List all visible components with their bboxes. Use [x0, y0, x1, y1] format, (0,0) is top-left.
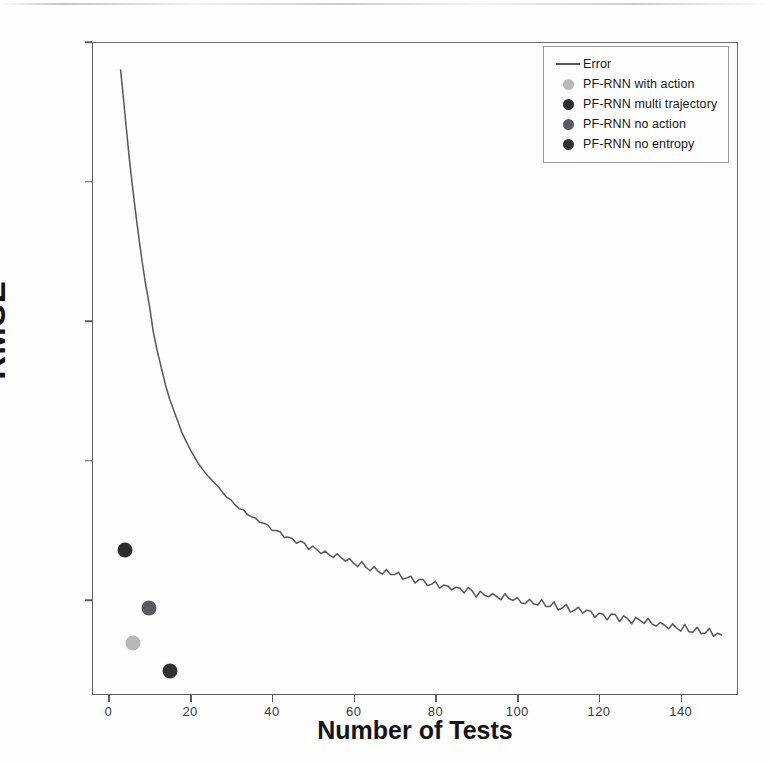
legend-dot-marker: [563, 139, 574, 150]
x-tick-mark: [435, 695, 437, 702]
scatter-point: [117, 542, 132, 557]
y-tick-mark: [85, 320, 92, 322]
y-tick-mark: [85, 181, 92, 183]
y-tick-mark: [85, 599, 92, 601]
x-tick-label: 40: [264, 704, 279, 719]
legend-label: PF-RNN no action: [583, 117, 686, 131]
legend-item: PF-RNN with action: [553, 74, 719, 94]
y-tick-mark: [85, 41, 92, 43]
x-tick-mark: [272, 695, 274, 702]
x-tick-mark: [108, 695, 110, 702]
legend-item: PF-RNN no entropy: [553, 134, 719, 154]
x-tick-label: 120: [588, 704, 611, 719]
legend-label: Error: [583, 57, 611, 71]
legend-item: Error: [553, 54, 719, 74]
scan-artifact-line: [0, 3, 772, 5]
x-tick-mark: [190, 695, 192, 702]
x-tick-label: 140: [669, 704, 692, 719]
legend-label: PF-RNN no entropy: [583, 137, 694, 151]
rmse-figure: 2.52.051.00.5020406080100120140 RMSE Num…: [0, 0, 772, 764]
legend-item: PF-RNN multi trajectory: [553, 94, 719, 114]
scatter-point: [162, 664, 177, 679]
chart-legend: ErrorPF-RNN with actionPF-RNN multi traj…: [543, 46, 729, 163]
x-tick-mark: [517, 695, 519, 702]
legend-line-marker: [556, 63, 580, 64]
legend-key-dot: [553, 79, 583, 90]
legend-key-dot: [553, 119, 583, 130]
legend-dot-marker: [563, 79, 574, 90]
x-tick-label: 0: [105, 704, 113, 719]
x-tick-mark: [681, 695, 683, 702]
legend-label: PF-RNN with action: [583, 77, 695, 91]
scatter-point: [142, 601, 157, 616]
legend-key-line: [553, 63, 583, 64]
y-tick-mark: [85, 460, 92, 462]
legend-dot-marker: [563, 99, 574, 110]
legend-key-dot: [553, 99, 583, 110]
x-tick-mark: [354, 695, 356, 702]
legend-key-dot: [553, 139, 583, 150]
legend-item: PF-RNN no action: [553, 114, 719, 134]
scatter-point: [125, 636, 140, 651]
legend-label: PF-RNN multi trajectory: [583, 97, 717, 111]
x-tick-mark: [599, 695, 601, 702]
x-axis-label: Number of Tests: [317, 716, 512, 745]
x-tick-label: 20: [182, 704, 197, 719]
y-axis-label: RMSE: [0, 280, 13, 379]
legend-dot-marker: [563, 119, 574, 130]
